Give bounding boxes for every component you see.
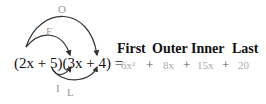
first-arrow: [26, 35, 70, 55]
label-inner: I: [56, 82, 60, 94]
outer-arrow: [26, 16, 97, 55]
plus-2: +: [183, 57, 190, 73]
term-first: 6x²: [121, 59, 135, 71]
header-first: First: [117, 41, 146, 57]
header-last: Last: [232, 41, 258, 57]
plus-3: +: [222, 57, 229, 73]
label-outer: O: [58, 3, 66, 15]
header-inner: Inner: [191, 41, 224, 57]
label-last: L: [67, 86, 74, 98]
header-outer: Outer: [152, 41, 188, 57]
expression: (2x + 5)(3x + 4) =: [14, 55, 123, 72]
term-last: 20: [238, 59, 249, 71]
term-inner: 15x: [197, 59, 214, 71]
term-outer: 8x: [163, 59, 174, 71]
plus-1: +: [146, 57, 153, 73]
label-first: F: [46, 25, 52, 37]
